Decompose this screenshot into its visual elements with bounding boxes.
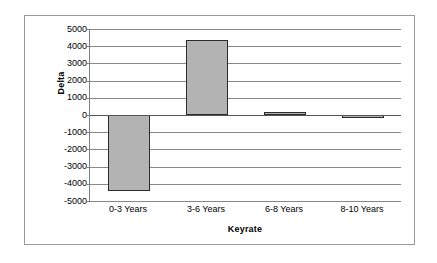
y-axis-tick-labels: 500040003000200010000-1000-2000-3000-400… [55,29,87,201]
y-axis-tick-label: 0 [55,111,87,120]
gridline [90,201,401,202]
bar [108,115,150,191]
y-axis-tick-label: 5000 [55,25,87,34]
y-axis-tick-label: -5000 [55,197,87,206]
y-axis-tick-label: -3000 [55,162,87,171]
y-axis-tick-label: 1000 [55,93,87,102]
x-axis-tick-label: 0-3 Years [89,204,167,214]
x-axis-tick-label: 3-6 Years [167,204,245,214]
y-axis-tick-label: -4000 [55,179,87,188]
x-axis-tick-labels: 0-3 Years3-6 Years6-8 Years8-10 Years [89,204,401,220]
y-axis-tick-label: 4000 [55,42,87,51]
y-axis-tick-label: 3000 [55,59,87,68]
chart-frame: Delta 500040003000200010000-1000-2000-30… [24,15,415,245]
y-axis-tick-mark [87,201,90,202]
plot-area [89,29,401,201]
zero-gridline [90,115,401,116]
x-axis-tick-label: 6-8 Years [245,204,323,214]
y-axis-tick-label: -2000 [55,145,87,154]
bar [186,40,228,115]
y-axis-tick-label: -1000 [55,128,87,137]
y-axis-tick-label: 2000 [55,76,87,85]
x-axis-tick-label: 8-10 Years [323,204,401,214]
x-axis-title: Keyrate [89,224,401,234]
